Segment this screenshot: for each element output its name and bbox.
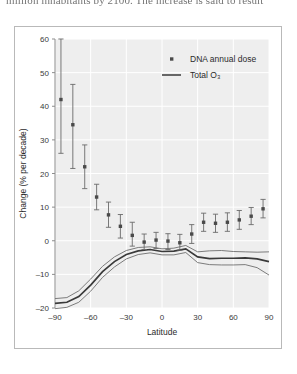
x-tick-label: 90 (265, 313, 274, 322)
data-point-marker (131, 234, 134, 237)
y-tick-label: 10 (40, 203, 49, 212)
y-tick-label: 50 (40, 69, 49, 78)
page-body-text: million inhabitants by 2100. The increas… (0, 0, 297, 14)
x-tick-label: –30 (120, 313, 134, 322)
data-point-marker (226, 221, 229, 224)
legend-marker-dna-icon (170, 57, 173, 60)
legend-label-dna: DNA annual dose (190, 54, 256, 64)
data-point-marker (83, 165, 86, 168)
x-tick-label: 30 (193, 313, 202, 322)
x-tick-label: –90 (48, 313, 62, 322)
data-point-marker (71, 123, 74, 126)
data-point-marker (95, 195, 98, 198)
figure-panel: –20–100102030405060–90–60–300306090Latit… (14, 26, 282, 349)
data-point-marker (107, 213, 110, 216)
data-point-marker (214, 222, 217, 225)
data-point-marker (119, 225, 122, 228)
y-tick-label: 60 (40, 35, 49, 44)
y-axis-title: Change (% per decade) (18, 128, 28, 218)
data-point-marker (59, 98, 62, 101)
body-text-line: million inhabitants by 2100. The increas… (6, 0, 263, 6)
data-point-marker (238, 218, 241, 221)
data-point-marker (190, 232, 193, 235)
data-point-marker (202, 221, 205, 224)
data-point-marker (154, 238, 157, 241)
legend-label-ozone: Total O₃ (190, 70, 220, 80)
y-tick-label: 20 (40, 170, 49, 179)
data-point-marker (142, 240, 145, 243)
y-tick-label: –10 (36, 270, 50, 279)
data-point-marker (249, 215, 252, 218)
ozone-dna-chart: –20–100102030405060–90–60–300306090Latit… (15, 27, 281, 348)
y-tick-label: 30 (40, 136, 49, 145)
y-tick-label: –20 (36, 304, 50, 313)
x-tick-label: 60 (229, 313, 238, 322)
x-axis-title: Latitude (147, 327, 178, 337)
data-point-marker (178, 241, 181, 244)
data-point-marker (166, 239, 169, 242)
y-tick-label: 0 (45, 237, 50, 246)
x-tick-label: –60 (84, 313, 98, 322)
x-tick-label: 0 (160, 313, 165, 322)
data-point-marker (261, 207, 264, 210)
y-tick-label: 40 (40, 102, 49, 111)
